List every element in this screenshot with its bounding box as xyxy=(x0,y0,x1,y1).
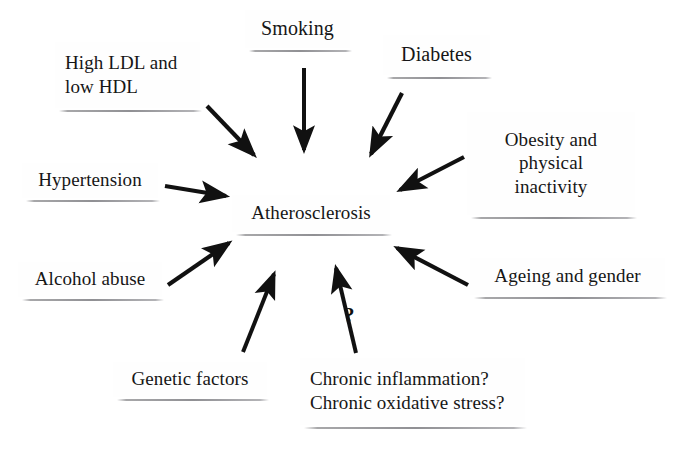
factor-label-line: Chronic inflammation? xyxy=(310,367,515,391)
factor-label-line: Alcohol abuse xyxy=(28,267,152,291)
factor-label-line: High LDL and xyxy=(65,51,190,75)
factor-node-hypertension[interactable]: Hypertension xyxy=(22,163,158,198)
factor-node-obesity-physical-inactivity[interactable]: Obesity and physical inactivity xyxy=(467,112,635,215)
arrow-alcohol-to-atherosclerosis xyxy=(168,243,229,285)
factor-node-ageing-and-gender[interactable]: Ageing and gender xyxy=(470,258,665,295)
diagram-canvas: ? High LDL and low HDL Smoking Diabetes … xyxy=(0,0,678,457)
factor-label-line: physical xyxy=(477,151,625,175)
factor-label-line: Chronic oxidative stress? xyxy=(310,391,515,415)
factor-node-alcohol-abuse[interactable]: Alcohol abuse xyxy=(18,262,162,297)
arrow-obesity-to-atherosclerosis xyxy=(400,157,464,190)
factor-label-line: Diabetes xyxy=(393,42,480,67)
factor-label-line: Obesity and xyxy=(477,128,625,152)
factor-node-smoking[interactable]: Smoking xyxy=(245,10,350,48)
factor-label-line: Genetic factors xyxy=(123,367,257,391)
factor-label-line: low HDL xyxy=(65,75,190,99)
uncertainty-question-mark-annotation: ? xyxy=(344,303,355,328)
arrow-genetic-to-atherosclerosis xyxy=(243,274,274,352)
factor-node-chronic-inflammation-oxidative-stress[interactable]: Chronic inflammation? Chronic oxidative … xyxy=(300,358,525,425)
factor-label-line: Hypertension xyxy=(32,168,148,192)
factor-label-line: Ageing and gender xyxy=(480,264,655,288)
factor-label-line: inactivity xyxy=(477,175,625,199)
factor-label-line: Smoking xyxy=(255,16,340,41)
factor-node-genetic-factors[interactable]: Genetic factors xyxy=(113,362,267,397)
arrow-hypertension-to-atherosclerosis xyxy=(165,186,226,196)
arrow-ldl-to-atherosclerosis xyxy=(207,106,254,155)
factor-node-high-ldl-low-hdl[interactable]: High LDL and low HDL xyxy=(55,42,200,108)
arrow-diabetes-to-atherosclerosis xyxy=(371,93,402,154)
central-node-atherosclerosis[interactable]: Atherosclerosis xyxy=(232,195,390,232)
arrow-ageing-to-atherosclerosis xyxy=(397,248,468,285)
factor-node-diabetes[interactable]: Diabetes xyxy=(383,35,490,75)
central-node-label: Atherosclerosis xyxy=(242,201,380,225)
